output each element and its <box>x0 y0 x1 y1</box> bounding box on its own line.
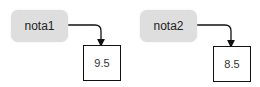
variable-name: nota1 <box>24 19 54 33</box>
arrow-nota1-to-value <box>68 25 101 43</box>
value-box-nota2: 8.5 <box>213 46 251 82</box>
variable-box-nota2: nota2 <box>140 10 197 42</box>
variable-value: 9.5 <box>94 57 109 69</box>
variable-value: 8.5 <box>224 58 239 70</box>
value-box-nota1: 9.5 <box>83 45 121 81</box>
variable-name: nota2 <box>153 19 183 33</box>
arrow-nota2-to-value <box>197 25 231 44</box>
variable-box-nota1: nota1 <box>11 10 68 42</box>
